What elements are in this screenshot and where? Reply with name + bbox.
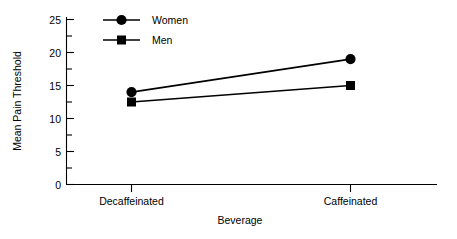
- series-men: [127, 81, 355, 107]
- y-axis-tick-labels: 25 20 15 10 5 0: [49, 14, 61, 191]
- square-marker-icon: [117, 36, 126, 45]
- data-point-women-caffeinated: [345, 54, 355, 64]
- circle-marker-icon: [116, 15, 126, 25]
- data-point-women-decaffeinated: [126, 87, 136, 97]
- series-women-line: [132, 59, 351, 92]
- y-tick-label-5: 5: [55, 146, 61, 158]
- legend-label-women: Women: [152, 14, 188, 26]
- legend-label-men: Men: [152, 34, 173, 46]
- x-axis-title: Beverage: [218, 214, 263, 226]
- x-axis-ticks: [132, 185, 351, 193]
- chart-canvas: 25 20 15 10 5 0 Decaffeinated Caffeinate…: [0, 0, 457, 239]
- y-tick-label-10: 10: [49, 113, 61, 125]
- y-tick-label-0: 0: [55, 179, 61, 191]
- series-men-line: [132, 86, 351, 103]
- x-tick-label-decaffeinated: Decaffeinated: [99, 195, 164, 207]
- y-tick-label-25: 25: [49, 14, 61, 26]
- data-point-men-decaffeinated: [127, 98, 136, 107]
- y-axis-title: Mean Pain Threshold: [11, 51, 23, 151]
- interaction-plot-figure: 25 20 15 10 5 0 Decaffeinated Caffeinate…: [0, 0, 457, 239]
- y-tick-label-15: 15: [49, 80, 61, 92]
- legend-entry-women: Women: [103, 14, 188, 26]
- x-tick-label-caffeinated: Caffeinated: [324, 195, 378, 207]
- y-axis-minor-ticks: [67, 36, 73, 168]
- data-point-men-caffeinated: [346, 81, 355, 90]
- x-axis-tick-labels: Decaffeinated Caffeinated: [99, 195, 377, 207]
- legend: Women Men: [103, 14, 188, 46]
- y-tick-label-20: 20: [49, 47, 61, 59]
- legend-entry-men: Men: [103, 34, 173, 46]
- series-women: [126, 54, 355, 97]
